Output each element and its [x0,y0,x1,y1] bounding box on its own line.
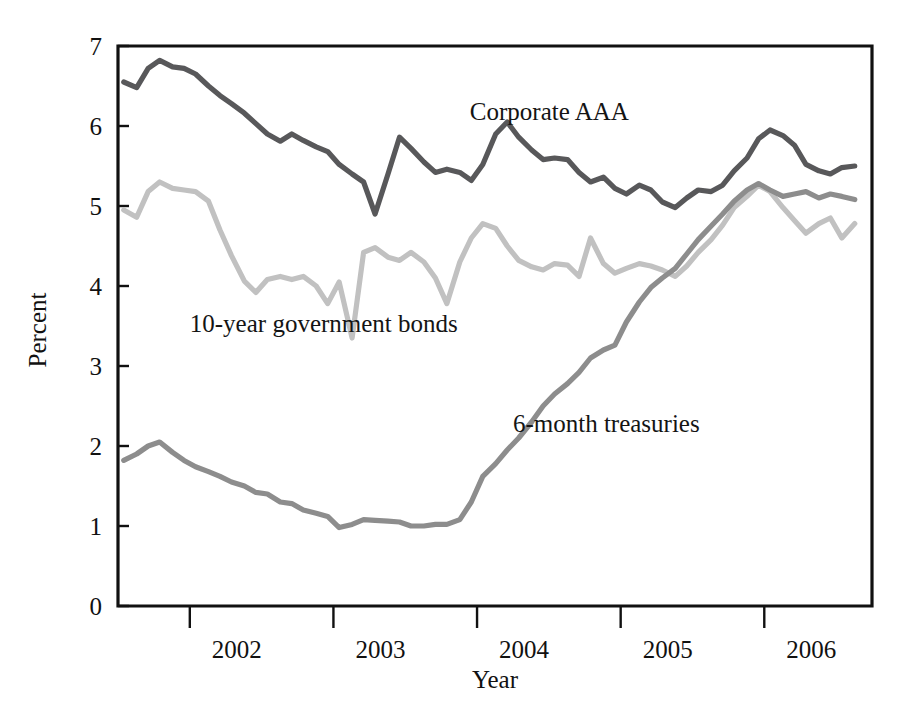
y-tick-label: 2 [90,433,103,460]
y-tick-label: 0 [90,593,103,620]
chart-container: 01234567 20022003200420052006 Corporate … [0,0,916,706]
y-axis-title: Percent [24,292,51,367]
y-tick-label: 1 [90,513,103,540]
x-tick-label: 2002 [212,636,262,663]
line-chart: 01234567 20022003200420052006 Corporate … [0,0,916,706]
series-label: 10-year government bonds [190,310,458,337]
x-tick-label: 2003 [355,636,405,663]
y-tick-label: 7 [90,33,103,60]
series-label: Corporate AAA [470,98,629,125]
y-tick-label: 5 [90,193,103,220]
x-tick-label: 2005 [643,636,693,663]
chart-background [0,0,916,706]
y-tick-label: 6 [90,113,103,140]
x-tick-label: 2006 [786,636,836,663]
y-tick-label: 3 [90,353,103,380]
x-axis-title: Year [472,666,519,693]
y-tick-label: 4 [90,273,103,300]
x-tick-label: 2004 [499,636,550,663]
series-label: 6-month treasuries [513,410,700,437]
